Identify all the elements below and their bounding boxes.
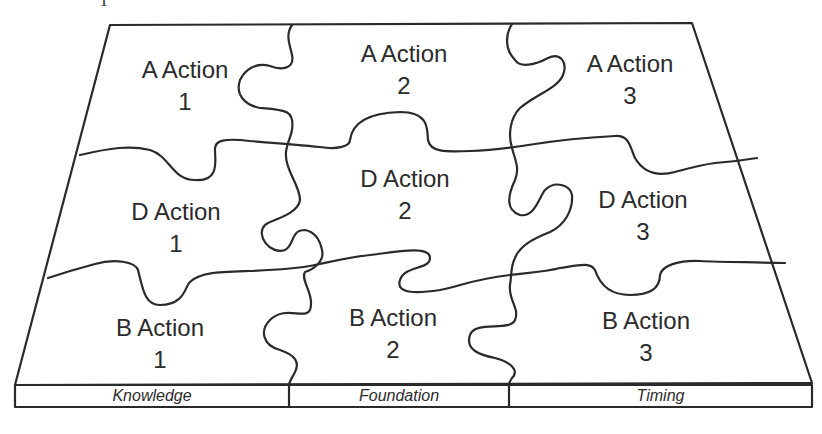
piece-a3-label: A Action 3: [587, 48, 674, 112]
piece-b1-label: B Action 1: [116, 312, 204, 376]
puzzle-diagram: I A Action 1 A Action 2 A Action 3 D Act…: [0, 0, 822, 434]
piece-b2-label: B Action 2: [349, 302, 437, 366]
piece-d2-label: D Action 2: [360, 163, 449, 227]
piece-d2-title: D Action: [360, 163, 449, 195]
piece-b1-number: 1: [116, 344, 204, 376]
piece-b1-title: B Action: [116, 312, 204, 344]
piece-a1-number: 1: [142, 86, 229, 118]
piece-a3-title: A Action: [587, 48, 674, 80]
piece-a1-title: A Action: [142, 54, 229, 86]
base-label-knowledge: Knowledge: [15, 386, 289, 406]
piece-d1-number: 1: [131, 228, 220, 260]
piece-b2-title: B Action: [349, 302, 437, 334]
piece-a1-label: A Action 1: [142, 54, 229, 118]
piece-d2-number: 2: [360, 195, 449, 227]
piece-a2-label: A Action 2: [361, 38, 448, 102]
piece-a2-title: A Action: [361, 38, 448, 70]
piece-b3-label: B Action 3: [602, 305, 690, 369]
piece-b2-number: 2: [349, 334, 437, 366]
piece-d1-title: D Action: [131, 196, 220, 228]
piece-d3-number: 3: [598, 216, 687, 248]
piece-d1-label: D Action 1: [131, 196, 220, 260]
piece-d3-title: D Action: [598, 184, 687, 216]
piece-b3-title: B Action: [602, 305, 690, 337]
piece-a3-number: 3: [587, 80, 674, 112]
base-label-timing: Timing: [509, 386, 812, 406]
piece-d3-label: D Action 3: [598, 184, 687, 248]
piece-a2-number: 2: [361, 70, 448, 102]
piece-b3-number: 3: [602, 337, 690, 369]
base-label-foundation: Foundation: [289, 386, 509, 406]
cropped-text-fragment: I: [101, 0, 107, 11]
